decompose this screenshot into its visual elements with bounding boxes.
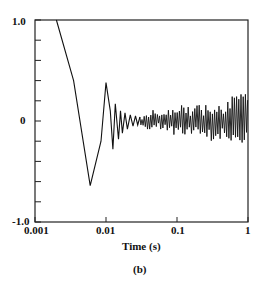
x-axis-ticks [35,217,248,222]
x-tick-label-0.1: 0.1 [171,225,185,236]
x-axis-title: Time (s) [122,240,161,252]
y-tick-label-top: 1.0 [12,16,26,27]
y-axis-ticks [35,20,41,222]
x-tick-label-0.001: 0.001 [24,225,49,236]
y-tick-label-zero: 0 [20,115,26,126]
noise-band [140,94,248,142]
figure-caption: (b) [133,263,146,275]
x-tick-label-0.01: 0.01 [96,225,115,236]
x-tick-label-1: 1 [245,225,251,236]
response-curve [56,20,139,186]
